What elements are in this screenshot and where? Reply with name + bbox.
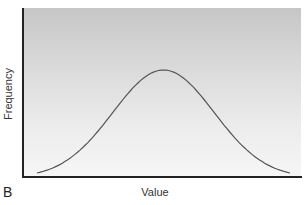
x-axis-line bbox=[22, 176, 302, 178]
y-axis-line bbox=[22, 8, 24, 178]
x-axis-label: Value bbox=[130, 186, 180, 198]
distribution-curve bbox=[0, 0, 306, 205]
y-axis-label: Frequency bbox=[2, 64, 14, 124]
panel-label: B bbox=[3, 184, 12, 200]
